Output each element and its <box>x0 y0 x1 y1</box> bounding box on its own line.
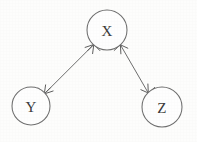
node-x[interactable]: X <box>87 10 127 50</box>
edge-x-y[interactable] <box>38 45 100 94</box>
node-z-label: Z <box>157 100 166 116</box>
edge-x-z[interactable] <box>112 43 156 95</box>
edge-x-y-line <box>44 45 94 94</box>
node-z[interactable]: Z <box>142 87 182 127</box>
diagram-canvas: X Y Z <box>0 0 197 142</box>
node-x-label: X <box>101 23 112 39</box>
node-y-label: Y <box>25 99 36 115</box>
edge-group <box>38 43 156 95</box>
node-group: X Y Z <box>12 10 182 127</box>
causal-graph-svg: X Y Z <box>0 0 197 142</box>
node-y[interactable]: Y <box>12 87 50 125</box>
edge-x-z-line <box>120 45 148 93</box>
